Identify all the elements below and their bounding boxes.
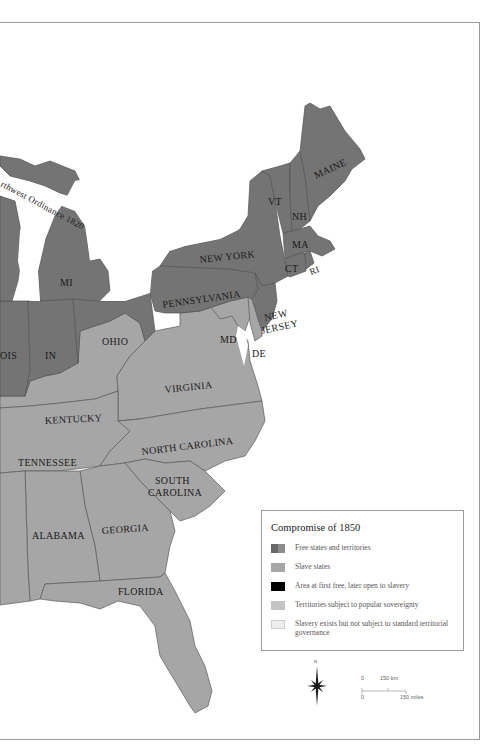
label-florida: FLORIDA: [118, 586, 164, 597]
scale-km-zero: 0: [361, 675, 364, 681]
label-south-carolina-2: CAROLINA: [148, 487, 203, 498]
label-nh: NH: [292, 211, 307, 222]
label-ri: RI: [308, 264, 320, 277]
label-illinois-partial: OIS: [0, 350, 17, 361]
legend-item-unorganized: Slavery exists but not subject to standa…: [271, 619, 454, 637]
state-illinois-partial: [0, 301, 30, 396]
compass-rose-icon: N: [307, 659, 327, 706]
legend-title: Compromise of 1850: [271, 522, 454, 533]
label-alabama: ALABAMA: [32, 530, 85, 541]
legend-item-slave: Slave states: [271, 562, 454, 572]
state-mississippi-partial: [0, 471, 30, 605]
label-ma: MA: [292, 239, 309, 250]
popular-swatch-icon: [271, 601, 285, 610]
scale-mi-label: 150 miles: [400, 694, 424, 700]
state-wisconsin-partial: [0, 196, 22, 301]
label-mi: MI: [60, 277, 73, 288]
label-ct: CT: [285, 263, 298, 274]
black-swatch-icon: [271, 582, 285, 591]
legend-item-black: Area at first free, later open to slaver…: [271, 581, 454, 591]
free-swatch-icon: [271, 544, 285, 553]
label-south-carolina-1: SOUTH: [155, 475, 190, 486]
scale-mi-zero: 0: [361, 694, 364, 700]
unorganized-swatch-icon: [271, 620, 285, 629]
label-in: IN: [45, 350, 56, 361]
label-ohio: OHIO: [102, 336, 128, 347]
scale-km-label: 150 km: [380, 675, 398, 681]
legend-item-popular: Territories subject to popular sovereign…: [271, 600, 454, 610]
slave-swatch-icon: [271, 563, 285, 572]
label-tennessee: TENNESSEE: [18, 457, 77, 468]
legend: Compromise of 1850 Free states and terri…: [261, 510, 464, 651]
legend-item-free: Free states and territories: [271, 543, 454, 553]
svg-text:N: N: [314, 659, 317, 664]
label-md: MD: [220, 334, 237, 345]
label-vt: VT: [268, 196, 282, 207]
label-de: DE: [252, 348, 266, 359]
